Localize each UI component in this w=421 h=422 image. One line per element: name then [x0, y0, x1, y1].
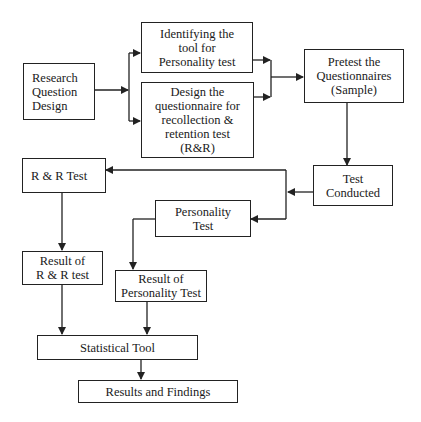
node-research-question-design: Research Question Design — [23, 63, 95, 120]
node-identifying-tool: Identifying the tool for Personality tes… — [141, 22, 253, 73]
node-pretest: Pretest the Questionnaires (Sample) — [304, 49, 404, 103]
node-test-conducted: Test Conducted — [313, 165, 393, 206]
node-design-questionnaire: Design the questionnaire for recollectio… — [141, 82, 254, 158]
node-personality-test: Personality Test — [155, 200, 251, 237]
node-results-findings: Results and Findings — [78, 380, 238, 403]
flowchart-canvas: Research Question Design Identifying the… — [0, 0, 421, 422]
node-rr-test: R & R Test — [22, 158, 106, 193]
node-statistical-tool: Statistical Tool — [37, 335, 198, 360]
node-result-rr: Result of R & R test — [22, 251, 103, 285]
node-result-personality: Result of Personality Test — [115, 270, 207, 302]
